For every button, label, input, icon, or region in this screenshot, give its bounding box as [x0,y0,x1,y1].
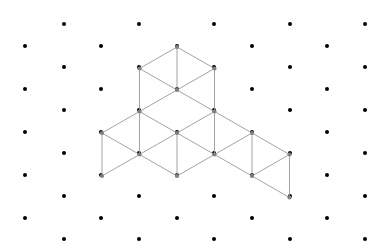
cube-edge [177,133,215,155]
cube-edge [140,69,178,91]
cube-edge [140,90,178,112]
grid-dot [62,237,66,241]
cube-edge [177,69,215,91]
grid-dot [99,216,103,220]
grid-dot [99,87,103,91]
grid-dot [325,173,329,177]
grid-dot [23,87,27,91]
grid-dot [137,237,141,241]
cube-vertex [212,66,216,70]
cube-edge [102,112,140,134]
grid-dot [137,22,141,26]
grid-dot [325,130,329,134]
cube-edge [140,112,178,134]
grid-dot [62,194,66,198]
grid-dot [23,173,27,177]
grid-dot [62,22,66,26]
cube-edge [102,133,140,155]
cube-vertex [287,195,291,199]
grid-dot [363,194,367,198]
grid-dot [363,151,367,155]
cube-vertex [250,174,254,178]
grid-dot [363,65,367,69]
grid-dot [288,65,292,69]
cube-vertex [137,152,141,156]
cube-vertex [212,152,216,156]
grid-dot [212,194,216,198]
grid-dot [62,151,66,155]
cube-vertex [212,109,216,113]
cube-vertex [175,174,179,178]
cube-vertex [137,66,141,70]
cube-edge-layer [102,47,290,198]
grid-dot [288,22,292,26]
grid-dot [23,44,27,48]
grid-dot [99,44,103,48]
cube-vertex [100,131,104,135]
grid-dot [288,108,292,112]
grid-dot [325,216,329,220]
cube-edge [140,133,178,155]
grid-dot [325,44,329,48]
cube-vertex [175,88,179,92]
cube-vertex [137,109,141,113]
grid-dot [250,87,254,91]
grid-dot [175,216,179,220]
grid-dot [363,22,367,26]
cube-edge [252,155,290,177]
grid-dot [62,108,66,112]
cube-edge [252,176,290,198]
cube-edge [215,155,253,177]
grid-dot [137,194,141,198]
grid-dot [325,87,329,91]
grid-dot [212,237,216,241]
cube-edge [102,155,140,177]
cube-edge [215,133,253,155]
grid-dot [250,44,254,48]
cube-vertex [175,45,179,49]
grid-dot [212,22,216,26]
isometric-figure-canvas [0,0,390,243]
grid-dot [363,237,367,241]
grid-dot [23,216,27,220]
grid-dot [62,65,66,69]
cube-edge [140,155,178,177]
cube-edge [215,112,253,134]
cube-edge [252,133,290,155]
cube-edge [177,90,215,112]
cube-vertex [175,131,179,135]
cube-vertex [287,152,291,156]
grid-dot [250,216,254,220]
isometric-cube-drawing [0,0,390,243]
cube-vertex [250,131,254,135]
grid-dot [23,130,27,134]
grid-dot [288,237,292,241]
cube-vertex [100,174,104,178]
cube-edge [177,155,215,177]
cube-edge [177,112,215,134]
grid-dot [363,108,367,112]
dot-grid-layer [23,22,367,241]
cube-edge [140,47,178,69]
cube-edge [177,47,215,69]
